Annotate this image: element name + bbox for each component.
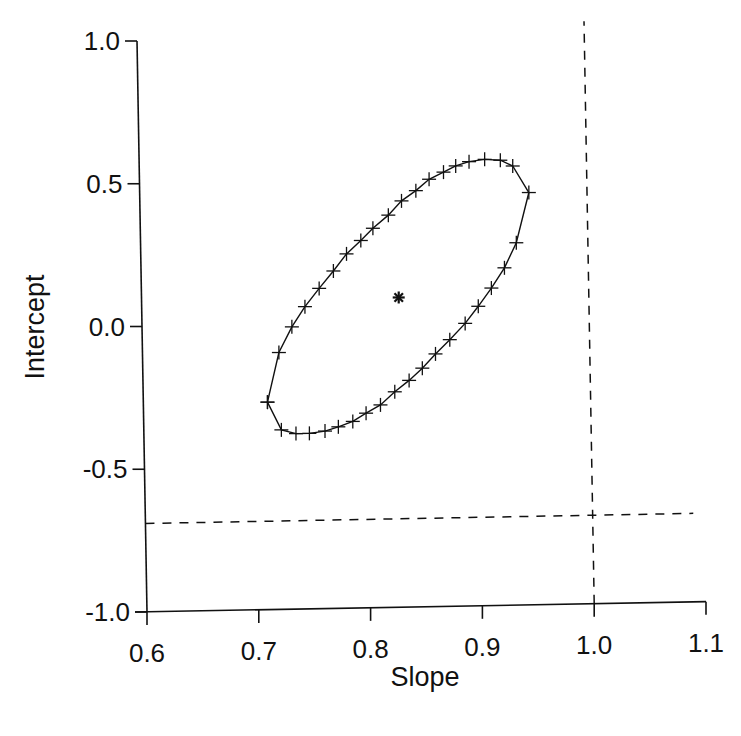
plus-marker <box>298 300 312 314</box>
y-tick-label: 0.5 <box>86 169 122 199</box>
axes: -1.0-0.50.00.51.00.60.70.80.91.01.1 <box>83 26 724 668</box>
plus-marker <box>478 152 492 166</box>
plus-marker <box>331 420 345 434</box>
y-tick-label: -0.5 <box>83 454 128 484</box>
plus-marker <box>493 153 507 167</box>
plus-marker <box>289 427 303 441</box>
x-axis-line <box>135 602 706 612</box>
chart: -1.0-0.50.00.51.00.60.70.80.91.01.1 Slop… <box>0 0 741 736</box>
plus-marker <box>274 423 288 437</box>
estimate-star-marker <box>393 291 405 303</box>
plus-marker <box>302 426 316 440</box>
x-tick-label: 0.7 <box>241 636 277 666</box>
plus-marker <box>272 346 286 360</box>
plus-marker <box>436 165 450 179</box>
data-series <box>260 152 535 440</box>
plus-marker <box>359 406 373 420</box>
plus-marker <box>509 236 523 250</box>
plus-marker <box>318 424 332 438</box>
y-tick-label: 1.0 <box>84 26 120 56</box>
x-tick-label: 0.9 <box>464 632 500 662</box>
x-tick-label: 0.8 <box>353 634 389 664</box>
y-axis-label: Intercept <box>20 274 50 380</box>
plus-marker <box>484 281 498 295</box>
plus-marker <box>506 159 520 173</box>
y-tick-label: -1.0 <box>85 597 130 627</box>
reference-lines <box>145 21 693 603</box>
plot-area: -1.0-0.50.00.51.00.60.70.80.91.01.1 Slop… <box>0 0 741 736</box>
plus-marker <box>471 299 485 313</box>
x-axis-label: Slope <box>390 662 459 692</box>
plus-marker <box>449 159 463 173</box>
plus-marker <box>462 155 476 169</box>
plus-marker <box>522 186 536 200</box>
x-tick-label: 1.0 <box>576 630 612 660</box>
y-tick-label: 0.0 <box>89 312 125 342</box>
reference-line-horizontal <box>145 513 693 523</box>
x-tick-label: 1.1 <box>688 628 724 658</box>
plus-marker <box>260 395 274 409</box>
plus-marker <box>285 320 299 334</box>
plus-marker <box>497 261 511 275</box>
plus-marker <box>346 414 360 428</box>
reference-line-vertical <box>584 21 594 603</box>
x-tick-label: 0.6 <box>129 638 165 668</box>
